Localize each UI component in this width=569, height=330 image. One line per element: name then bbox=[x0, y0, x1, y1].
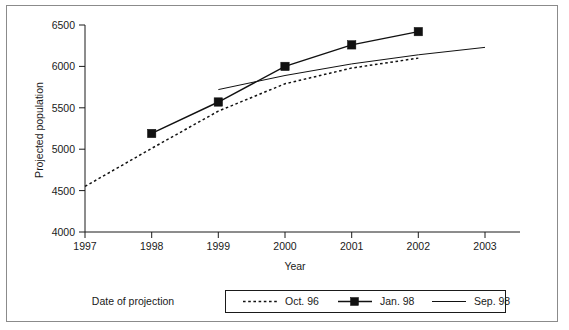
data-point-marker bbox=[347, 41, 355, 49]
x-tick-label: 1999 bbox=[207, 240, 231, 252]
y-tick-labels: 4000 4500 5000 5500 6000 6500 bbox=[52, 19, 76, 238]
series-path bbox=[152, 32, 419, 134]
data-point-marker bbox=[214, 98, 222, 106]
data-point-marker bbox=[281, 62, 289, 70]
x-tick-label: 2000 bbox=[273, 240, 297, 252]
legend: Date of projection Oct. 96 Jan. 98 Sep. … bbox=[92, 291, 511, 313]
x-tick-label: 2003 bbox=[473, 240, 497, 252]
series-path bbox=[85, 58, 418, 186]
legend-label: Jan. 98 bbox=[380, 295, 415, 307]
x-tick-label: 1998 bbox=[140, 240, 164, 252]
y-tick-label: 4500 bbox=[52, 185, 76, 197]
y-tick-marks bbox=[79, 25, 85, 232]
y-tick-label: 5000 bbox=[52, 143, 76, 155]
data-point-marker bbox=[147, 129, 155, 137]
legend-label: Oct. 96 bbox=[285, 295, 319, 307]
y-tick-label: 6500 bbox=[52, 19, 76, 31]
x-tick-label: 2002 bbox=[407, 240, 431, 252]
series-oct-96 bbox=[85, 58, 418, 186]
x-tick-labels: 1997 1998 1999 2000 2001 2002 2003 bbox=[73, 240, 497, 252]
data-series-layer bbox=[85, 27, 485, 186]
y-tick-label: 5500 bbox=[52, 102, 76, 114]
figure-container: 4000 4500 5000 5500 6000 6500 1997 1998 … bbox=[0, 0, 569, 330]
y-tick-label: 4000 bbox=[52, 226, 76, 238]
chart-canvas: 4000 4500 5000 5500 6000 6500 1997 1998 … bbox=[0, 0, 569, 330]
data-point-marker bbox=[414, 27, 422, 35]
y-tick-label: 6000 bbox=[52, 60, 76, 72]
legend-square-marker bbox=[351, 298, 359, 306]
x-tick-label: 2001 bbox=[340, 240, 364, 252]
legend-label: Sep. 98 bbox=[474, 295, 510, 307]
x-tick-marks bbox=[85, 232, 485, 238]
legend-title: Date of projection bbox=[92, 295, 174, 307]
x-axis-title: Year bbox=[284, 260, 306, 272]
series-jan-98 bbox=[147, 27, 422, 137]
y-axis-title: Projected population bbox=[33, 82, 45, 178]
x-tick-label: 1997 bbox=[73, 240, 97, 252]
